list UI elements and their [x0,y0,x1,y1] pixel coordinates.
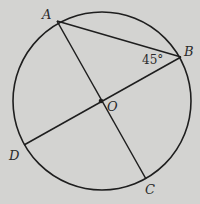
label-point-o: O [107,99,118,114]
chord-ab [57,21,181,57]
angle-label-b: 45° [142,53,163,67]
label-point-c: C [145,182,155,197]
label-point-b: B [183,44,194,59]
label-point-d: D [8,148,20,163]
label-point-a: A [41,7,51,22]
geometry-diagram: A B C D O 45° [0,0,200,204]
center-point-o [99,99,104,104]
